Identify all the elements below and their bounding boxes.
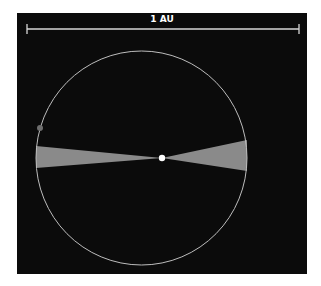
star-icon: [159, 155, 165, 161]
scale-bar: [27, 24, 299, 34]
planet-icon[interactable]: [37, 125, 43, 131]
orbit-diagram: [0, 0, 321, 286]
scale-bar-label: 1 AU: [17, 14, 307, 25]
swept-area-wedge-right: [162, 140, 247, 171]
swept-area-wedge-left: [36, 146, 162, 168]
